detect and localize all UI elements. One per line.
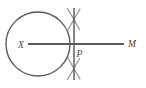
label-center-x: X xyxy=(17,40,25,50)
geometry-diagram: X P M xyxy=(0,0,146,88)
geometry-canvas: X P M xyxy=(0,0,146,88)
label-point-p: P xyxy=(76,49,83,59)
label-ray-end-m: M xyxy=(127,39,137,49)
